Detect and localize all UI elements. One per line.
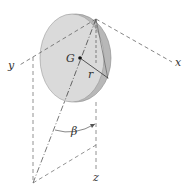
pendulum-diagram: y x z G r β	[0, 0, 192, 192]
center-label: G	[66, 52, 75, 65]
y-axis-label: y	[7, 59, 15, 72]
angle-label: β	[70, 125, 77, 138]
x-axis-label: x	[175, 56, 182, 69]
pendulum-axis-line	[33, 103, 64, 183]
z-axis-label: z	[92, 171, 99, 184]
base-diagonal-dashed-line	[33, 145, 96, 183]
center-of-mass-dot	[78, 56, 82, 60]
radius-label: r	[88, 68, 94, 81]
